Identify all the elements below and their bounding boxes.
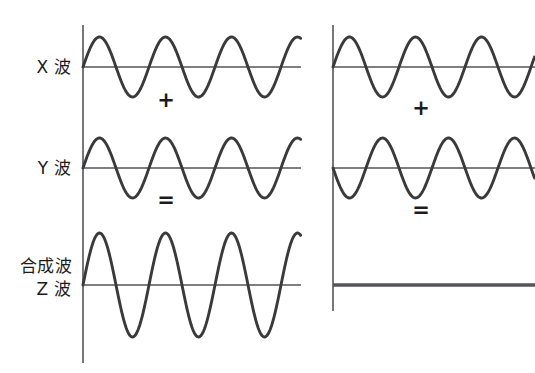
- waveform-canvas: [0, 0, 535, 373]
- left-panel: [83, 25, 301, 363]
- wave-interference-figure: X 波 Y 波 合成波 Z 波 + = + =: [0, 0, 535, 373]
- right-panel: [333, 25, 535, 311]
